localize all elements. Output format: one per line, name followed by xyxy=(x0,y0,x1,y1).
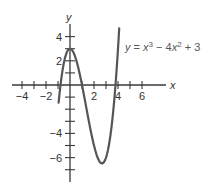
y-axis: 42−4−6 y xyxy=(49,11,75,182)
x-tick-label: −2 xyxy=(40,90,53,102)
y-tick-label: −4 xyxy=(49,127,62,139)
y-axis-label: y xyxy=(65,11,73,23)
x-axis-tick-labels: −4−2246 xyxy=(16,90,145,102)
function-graph: −4−2246 x 42−4−6 y y = x3 − 4x2 + 3 xyxy=(0,0,218,189)
x-tick-label: 6 xyxy=(139,90,145,102)
equation-label: y = x3 − 4x2 + 3 xyxy=(124,40,200,53)
y-tick-label: 2 xyxy=(56,55,62,67)
x-axis-label: x xyxy=(169,79,176,91)
y-tick-label: 4 xyxy=(56,31,62,43)
x-tick-label: −4 xyxy=(16,90,29,102)
equation-minus-term: − 4 xyxy=(153,41,172,53)
y-tick-label: −6 xyxy=(49,152,62,164)
x-tick-label: 2 xyxy=(91,90,97,102)
x-axis: −4−2246 x xyxy=(12,79,176,102)
equation-constant: + 3 xyxy=(182,41,201,53)
equation-equals: = xyxy=(131,41,144,53)
